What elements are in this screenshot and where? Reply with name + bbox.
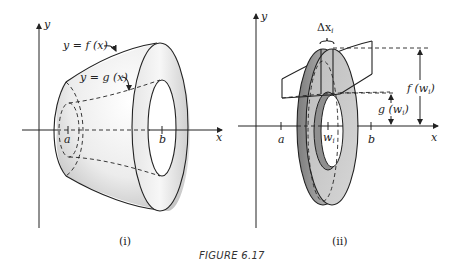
x-axis-label-i: x: [216, 131, 223, 144]
y-axis-label-ii: y: [260, 10, 268, 23]
tick-label-b-ii: b: [368, 133, 375, 146]
figure-caption: FIGURE 6.17: [199, 250, 265, 261]
delta-x-label: Δxi: [317, 21, 333, 35]
y-axis-label-i: y: [43, 18, 51, 31]
label-y-equals-f-x: y = f (x): [62, 39, 108, 52]
label-y-equals-g-x: y = g (x): [79, 71, 128, 84]
label-g-wi: g (wi): [378, 103, 409, 117]
label-f-wi: f (wi): [406, 82, 435, 96]
tick-label-a-i: a: [64, 133, 71, 146]
tick-label-b-i: b: [159, 133, 166, 146]
panel-ii: y x a wi b Δxi: [238, 10, 438, 248]
x-axis-label-ii: x: [431, 131, 438, 144]
tick-label-a-ii: a: [278, 133, 285, 146]
panel-label-ii: (ii): [332, 235, 348, 248]
figure-6-17: y x a b y = f (x) y = g (x): [0, 0, 458, 267]
panel-i: y x a b y = f (x) y = g (x): [22, 18, 223, 248]
panel-label-i: (i): [119, 235, 131, 248]
delta-x-brace: [320, 38, 334, 44]
